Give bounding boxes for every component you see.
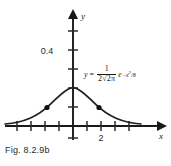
equation-lhs: y [84,70,88,79]
equation-exponent: −x2/8 [122,70,136,78]
equation-annotation: y = 1 2√2π e −x2/8 [84,62,171,86]
y-axis-label: y [80,11,85,21]
equation-exponent-denominator: 8 [133,72,136,78]
equation-fraction: 1 2√2π [97,65,116,83]
equation-denominator: 2√2π [97,75,116,83]
x-axis-arrow-icon [157,121,167,131]
equation-equals-sign: = [90,70,95,79]
x-axis-label: x [158,131,163,141]
figure-caption: Fig. 8.2.9b [5,145,50,155]
x-tick-label-0: 2 [98,133,103,143]
equation-exponent-numerator: −x [122,72,129,78]
y-tick-label-0: 0.4 [41,46,54,56]
inflection-point-right-dot [96,105,101,110]
equation-exponent-power: 2 [129,70,132,75]
y-axis-arrow-icon [68,9,78,19]
inflection-point-left-dot [44,105,49,110]
equation-numerator: 1 [102,65,112,73]
figure-container: y x 0.4 2 y = 1 2√2π e −x2/8 Fig. 8.2.9b [0,0,171,166]
